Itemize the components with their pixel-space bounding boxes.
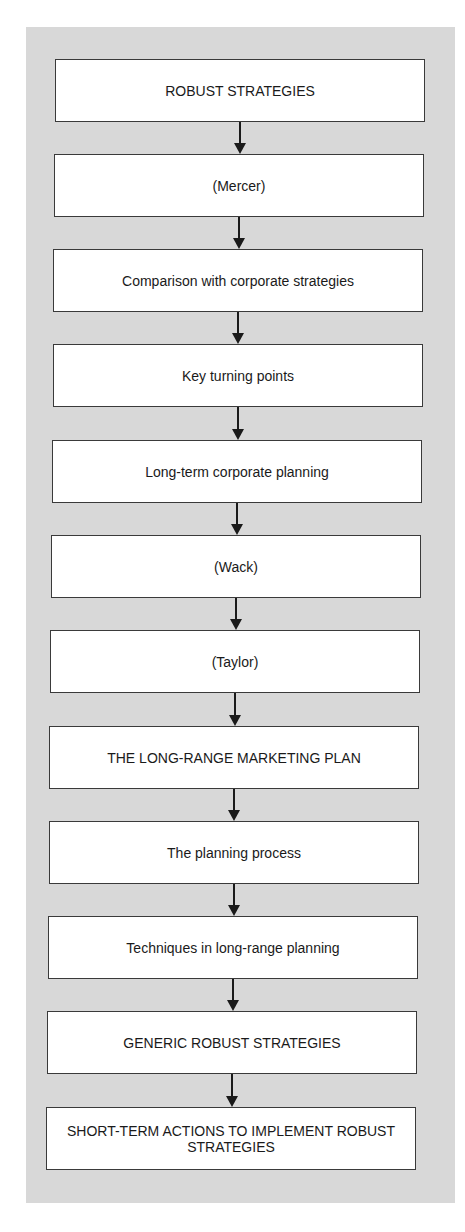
- flow-node-label: The planning process: [167, 845, 301, 861]
- flow-node-4: Key turning points: [53, 344, 423, 407]
- arrow-down-icon: [232, 312, 244, 344]
- flow-node-12: SHORT-TERM ACTIONS TO IMPLEMENT ROBUST S…: [46, 1107, 416, 1170]
- flow-node-label: Key turning points: [182, 368, 294, 384]
- flow-node-label: THE LONG-RANGE MARKETING PLAN: [107, 750, 361, 766]
- flow-node-1: ROBUST STRATEGIES: [55, 59, 425, 122]
- flow-node-label: SHORT-TERM ACTIONS TO IMPLEMENT ROBUST S…: [66, 1123, 396, 1155]
- flow-node-10: Techniques in long-range planning: [48, 916, 418, 979]
- arrow-down-icon: [227, 979, 239, 1011]
- flow-node-5: Long-term corporate planning: [52, 440, 422, 503]
- arrow-down-icon: [234, 122, 246, 154]
- flow-node-7: (Taylor): [50, 630, 420, 693]
- flow-node-11: GENERIC ROBUST STRATEGIES: [47, 1011, 417, 1074]
- flow-node-9: The planning process: [49, 821, 419, 884]
- flow-node-label: (Wack): [214, 559, 258, 575]
- arrow-down-icon: [228, 884, 240, 916]
- flow-node-label: (Mercer): [213, 178, 266, 194]
- flow-node-label: Techniques in long-range planning: [126, 940, 339, 956]
- arrow-down-icon: [229, 693, 241, 726]
- flow-node-label: Long-term corporate planning: [145, 464, 329, 480]
- flow-node-label: Comparison with corporate strategies: [122, 273, 354, 289]
- flow-node-label: ROBUST STRATEGIES: [165, 83, 315, 99]
- flow-node-label: GENERIC ROBUST STRATEGIES: [123, 1035, 340, 1051]
- flow-node-label: (Taylor): [212, 654, 259, 670]
- arrow-down-icon: [231, 503, 243, 535]
- arrow-down-icon: [230, 598, 242, 630]
- arrow-down-icon: [232, 407, 244, 440]
- arrow-down-icon: [233, 217, 245, 249]
- arrow-down-icon: [228, 789, 240, 821]
- flow-node-3: Comparison with corporate strategies: [53, 249, 423, 312]
- flow-node-2: (Mercer): [54, 154, 424, 217]
- flow-node-6: (Wack): [51, 535, 421, 598]
- arrow-down-icon: [226, 1074, 238, 1107]
- flow-node-8: THE LONG-RANGE MARKETING PLAN: [49, 726, 419, 789]
